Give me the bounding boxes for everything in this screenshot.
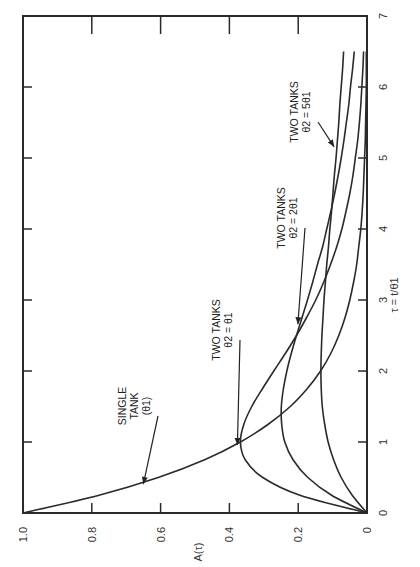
plot-frame bbox=[23, 16, 367, 513]
y-axis-label: A(τ) bbox=[192, 542, 204, 561]
annotation-1: TWO TANKSθ2 = θ1 bbox=[210, 299, 241, 445]
x-axis-label: τ = t/θ1 bbox=[388, 277, 400, 312]
x-tick-label: 5 bbox=[377, 155, 389, 161]
annotation-text: TWO TANKSθ2 = 2θ1 bbox=[275, 187, 299, 248]
x-tick-label: 2 bbox=[377, 368, 389, 374]
arrowhead-icon bbox=[328, 139, 334, 147]
annotation-2: TWO TANKSθ2 = 2θ1 bbox=[275, 187, 305, 324]
axis-ticks bbox=[23, 16, 367, 513]
x-tick-label: 0 bbox=[377, 510, 389, 516]
x-tick-label: 7 bbox=[377, 13, 389, 19]
tick-labels: 0123456700.20.40.60.81.0 bbox=[17, 13, 389, 542]
annotation-text: TWO TANKSθ2 = θ1 bbox=[210, 299, 234, 360]
y-tick-label: 0.4 bbox=[223, 527, 235, 542]
annotation-arrow bbox=[237, 340, 240, 445]
annotation-text: TWO TANKSθ2 = 5θ1 bbox=[288, 81, 312, 142]
annotation-3: TWO TANKSθ2 = 5θ1 bbox=[288, 81, 334, 147]
annotation-arrow bbox=[143, 416, 158, 484]
x-tick-label: 1 bbox=[377, 439, 389, 445]
rotated-line-chart: 0123456700.20.40.60.81.0 SINGLETANK(θ1)T… bbox=[0, 0, 420, 567]
curve-series-0 bbox=[23, 52, 366, 514]
curves bbox=[23, 52, 367, 514]
curve-annotations: SINGLETANK(θ1)TWO TANKSθ2 = θ1TWO TANKSθ… bbox=[116, 81, 334, 484]
y-tick-label: 0 bbox=[361, 527, 373, 533]
y-tick-label: 0.6 bbox=[155, 527, 167, 542]
x-tick-label: 4 bbox=[377, 226, 389, 232]
x-tick-label: 6 bbox=[377, 84, 389, 90]
y-tick-label: 1.0 bbox=[17, 527, 29, 542]
y-tick-label: 0.8 bbox=[86, 527, 98, 542]
annotation-0: SINGLETANK(θ1) bbox=[116, 387, 158, 484]
y-tick-label: 0.2 bbox=[292, 527, 304, 542]
annotation-text: SINGLETANK(θ1) bbox=[116, 387, 152, 426]
